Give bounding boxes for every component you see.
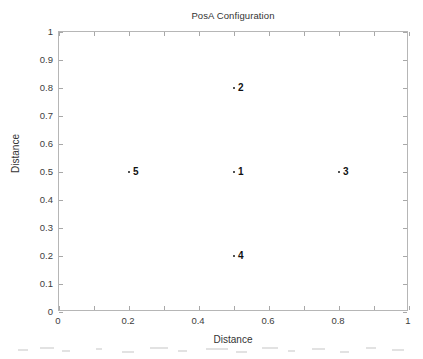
y-tick-mark-right — [403, 228, 407, 229]
y-tick-label: 0.1 — [20, 278, 53, 289]
x-tick-mark — [94, 306, 95, 310]
y-tick-mark-right — [403, 172, 407, 173]
chart-title: PosA Configuration — [58, 10, 408, 21]
y-tick-mark — [59, 172, 63, 173]
point-marker-icon — [233, 171, 236, 174]
x-tick-mark-top — [269, 32, 270, 36]
x-tick-mark-top — [304, 32, 305, 36]
x-tick-label: 0 — [55, 315, 60, 326]
y-tick-mark-right — [403, 60, 407, 61]
x-tick-mark — [164, 306, 165, 310]
x-tick-mark-top — [374, 32, 375, 36]
y-tick-mark — [59, 116, 63, 117]
point-marker-icon — [128, 171, 131, 174]
x-tick-mark — [304, 306, 305, 310]
x-tick-mark — [234, 306, 235, 310]
x-tick-label: 1 — [405, 315, 410, 326]
scan-artifacts — [0, 345, 423, 359]
y-tick-mark-right — [403, 312, 407, 313]
x-tick-mark — [199, 306, 200, 310]
x-tick-mark-top — [199, 32, 200, 36]
x-tick-mark-top — [234, 32, 235, 36]
data-point-label: 1 — [238, 166, 244, 177]
x-tick-mark — [409, 306, 410, 310]
x-tick-label: 0.8 — [331, 315, 344, 326]
x-tick-mark-top — [94, 32, 95, 36]
y-tick-mark — [59, 200, 63, 201]
y-tick-mark — [59, 228, 63, 229]
point-marker-icon — [233, 255, 236, 258]
y-tick-label: 0.4 — [20, 194, 53, 205]
y-tick-label: 0.5 — [20, 166, 53, 177]
y-tick-mark — [59, 256, 63, 257]
data-point-label: 4 — [238, 250, 244, 261]
y-tick-mark-right — [403, 256, 407, 257]
y-tick-mark-right — [403, 88, 407, 89]
y-tick-label: 0.9 — [20, 54, 53, 65]
y-tick-label: 0 — [20, 306, 53, 317]
y-tick-label: 0.6 — [20, 138, 53, 149]
data-point-label: 2 — [238, 82, 244, 93]
x-axis-label: Distance — [58, 334, 408, 345]
y-tick-label: 0.2 — [20, 250, 53, 261]
y-tick-mark — [59, 60, 63, 61]
x-tick-mark-top — [409, 32, 410, 36]
y-tick-mark-right — [403, 32, 407, 33]
point-marker-icon — [338, 171, 341, 174]
x-tick-label: 0.4 — [191, 315, 204, 326]
y-tick-mark — [59, 284, 63, 285]
figure: PosA Configuration 12345 00.20.40.60.81 … — [0, 0, 423, 359]
data-point-label: 3 — [343, 166, 349, 177]
y-tick-label: 1 — [20, 26, 53, 37]
x-tick-mark — [59, 306, 60, 310]
x-tick-mark — [129, 306, 130, 310]
data-point-label: 5 — [133, 166, 139, 177]
y-tick-mark-right — [403, 144, 407, 145]
x-tick-mark-top — [339, 32, 340, 36]
y-tick-mark-right — [403, 116, 407, 117]
y-tick-mark-right — [403, 200, 407, 201]
x-tick-mark — [374, 306, 375, 310]
y-tick-mark — [59, 88, 63, 89]
plot-area: 12345 — [58, 31, 408, 311]
y-tick-label: 0.8 — [20, 82, 53, 93]
y-tick-label: 0.3 — [20, 222, 53, 233]
x-tick-mark — [269, 306, 270, 310]
x-tick-mark-top — [129, 32, 130, 36]
y-tick-mark — [59, 32, 63, 33]
x-tick-mark-top — [164, 32, 165, 36]
y-axis-label: Distance — [10, 109, 21, 199]
x-tick-label: 0.6 — [261, 315, 274, 326]
x-tick-label: 0.2 — [121, 315, 134, 326]
y-tick-label: 0.7 — [20, 110, 53, 121]
y-tick-mark-right — [403, 284, 407, 285]
x-tick-mark — [339, 306, 340, 310]
point-marker-icon — [233, 87, 236, 90]
y-tick-mark — [59, 144, 63, 145]
y-tick-mark — [59, 312, 63, 313]
